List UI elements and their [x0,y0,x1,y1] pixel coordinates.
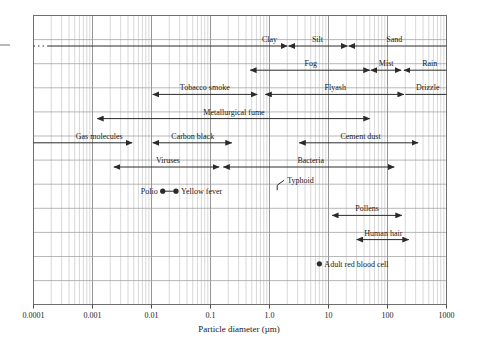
range-bar-label: Tobacco smoke [180,83,230,92]
x-tick-label: 1.0 [265,311,275,320]
x-tick-label: 0.001 [84,311,102,320]
chart-figure: ClaySiltSandFogMistRainTobacco smokeFlya… [0,0,478,350]
range-bar: Bacteria [223,156,394,167]
range-bar-label: Human hair [364,229,402,238]
x-tick-label: 0.1 [206,311,216,320]
range-bar-label: Bacteria [297,156,324,165]
range-bar-label: Cement dust [340,132,381,141]
range-bar: Flyash [265,83,404,94]
point-label: Yellow fever [181,187,223,196]
range-bar: Rain [404,59,447,70]
range-bar-label: Gas molecules [76,132,123,141]
range-bar-label: Drizzle [416,83,440,92]
axis-ticks-layer: 0.00010.0010.010.11.0101001000 [23,305,455,321]
page-edge-artifact [0,44,10,46]
range-bar: Drizzle [405,83,446,94]
range-bar-label: Clay [262,35,277,44]
range-bar-label: Rain [422,59,437,68]
range-bar: Pollens [332,204,402,215]
point-label: Adult red blood cell [324,260,389,269]
range-bar-label: Viruses [156,156,180,165]
x-tick-label: 0.0001 [23,311,45,320]
x-tick-label: 10 [325,311,333,320]
x-tick-label: 1000 [439,311,455,320]
range-bar-label: Carbon black [171,132,214,141]
particle-diameter-chart: ClaySiltSandFogMistRainTobacco smokeFlya… [0,0,478,350]
range-bar-label: Sand [386,35,402,44]
point-marker: Adult red blood cell [317,260,390,269]
range-bar: Human hair [357,229,409,240]
point-label: Polio [141,187,158,196]
x-axis-title: Particle diameter (µm) [198,324,280,334]
x-tick-label: 0.01 [145,311,159,320]
range-bar-label: Silt [312,35,324,44]
x-tick-label: 100 [382,311,394,320]
range-bar: Carbon black [153,132,232,143]
range-bar-label: Mist [379,59,394,68]
point-marker: Polio [141,187,166,196]
range-bar: Sand [349,35,447,46]
range-bar-label: Metallurgical fume [203,108,265,117]
range-bar-label: Pollens [355,204,379,213]
range-bar: Cement dust [299,132,418,143]
range-bar: Gas molecules [34,132,133,143]
point-marker: Typhoid [277,176,314,190]
range-bar: Viruses [114,156,219,167]
range-bar: Clay [34,35,288,46]
point-marker: Yellow fever [173,187,222,196]
range-bar: Fog [250,59,370,70]
point-label: Typhoid [287,176,314,185]
range-bar-label: Flyash [325,83,346,92]
point-markers-layer: PolioYellow feverTyphoidAdult red blood … [141,176,390,269]
range-bar: Mist [371,59,401,70]
range-bar-label: Fog [305,59,317,68]
